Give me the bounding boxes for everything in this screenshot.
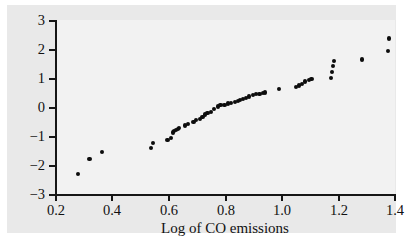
x-axis-tick: [111, 194, 113, 201]
data-point: [149, 146, 153, 150]
y-axis-tick: [49, 20, 56, 22]
y-axis-tick-label: 3: [19, 13, 45, 28]
x-axis-tick: [225, 194, 227, 201]
x-axis-tick: [394, 194, 396, 201]
x-axis-tick-label: 1.4: [375, 203, 409, 218]
y-axis-tick: [49, 165, 56, 167]
data-point: [329, 76, 333, 80]
x-axis-tick: [55, 194, 57, 201]
y-axis-tick: [49, 49, 56, 51]
y-axis-tick-label: −3: [19, 187, 45, 202]
x-axis-tick-label: 0.8: [206, 203, 246, 218]
x-axis-tick-label: 0.4: [92, 203, 132, 218]
y-axis-tick-label: 1: [19, 71, 45, 86]
y-axis-tick: [49, 78, 56, 80]
data-point: [309, 77, 313, 81]
y-axis-tick: [49, 136, 56, 138]
data-point: [263, 90, 267, 94]
x-axis-tick: [168, 194, 170, 201]
x-axis-tick-label: 1.2: [319, 203, 359, 218]
data-point: [387, 36, 391, 40]
y-axis-tick-label: −2: [19, 158, 45, 173]
data-point: [87, 157, 91, 161]
x-axis-tick-label: 1.0: [262, 203, 302, 218]
x-axis-tick: [281, 194, 283, 201]
x-axis-tick-label: 0.6: [149, 203, 189, 218]
y-axis-tick-label: −1: [19, 129, 45, 144]
x-axis-tick-label: 0.2: [36, 203, 76, 218]
figure-panel: 3 2 1 0 −1 −2 −3 0.2 0.4 0.6 0.8 1.0 1.2…: [7, 5, 396, 233]
x-axis-tick: [338, 194, 340, 201]
y-axis-tick-label: 0: [19, 100, 45, 115]
y-axis-tick: [49, 107, 56, 109]
data-point: [76, 172, 80, 176]
plot-area-background: [55, 20, 395, 195]
data-point: [332, 59, 336, 63]
data-point: [277, 87, 281, 91]
data-point: [151, 141, 155, 145]
x-axis-title: Log of CO emissions: [55, 221, 395, 236]
y-axis-tick-label: 2: [19, 42, 45, 57]
